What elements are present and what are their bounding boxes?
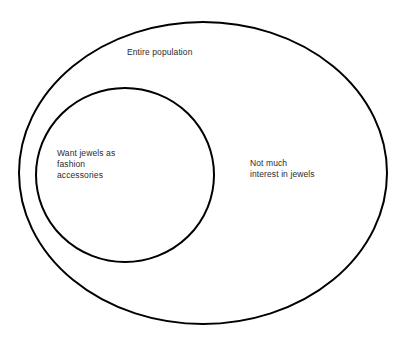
subset-label: Want jewels as fashion accessories xyxy=(57,148,115,181)
universe-label: Entire population xyxy=(127,47,193,58)
euler-diagram-canvas: Entire population Want jewels as fashion… xyxy=(0,0,406,340)
complement-label: Not much interest in jewels xyxy=(250,158,315,180)
